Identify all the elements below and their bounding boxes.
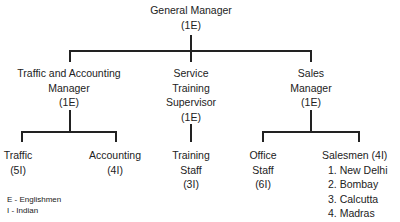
connector	[262, 131, 264, 142]
node-staff: (1E)	[140, 18, 242, 33]
node-title: Salesmen (4I)	[322, 148, 388, 163]
connector	[310, 110, 312, 132]
location-item: 1. New Delhi	[322, 163, 388, 178]
node-title: Manager	[270, 81, 352, 96]
connector	[69, 110, 71, 132]
node-staff: (1E)	[5, 95, 133, 110]
connector	[69, 50, 71, 62]
node-title: Supervisor	[150, 95, 232, 110]
connector	[190, 124, 192, 142]
connector	[21, 131, 23, 142]
connector	[358, 131, 360, 142]
node-title: Staff	[165, 163, 217, 178]
node-staff: (4I)	[82, 163, 148, 178]
node-title: General Manager	[140, 3, 242, 18]
node-title: Traffic and Accounting	[5, 66, 133, 81]
legend-indian: I - Indian	[7, 206, 61, 217]
legend-englishmen: E - Englishmen	[7, 195, 61, 206]
node-salesmen: Salesmen (4I) 1. New Delhi 2. Bombay 3. …	[322, 148, 388, 221]
node-general-manager: General Manager (1E)	[140, 3, 242, 32]
node-staff: (1E)	[150, 110, 232, 125]
node-staff: (6I)	[244, 177, 282, 192]
node-title: Training	[165, 148, 217, 163]
node-accounting: Accounting (4I)	[82, 148, 148, 177]
connector	[190, 50, 192, 62]
node-title: Accounting	[82, 148, 148, 163]
connector	[310, 50, 312, 62]
connector	[262, 131, 359, 133]
node-sales-manager: Sales Manager (1E)	[270, 66, 352, 110]
node-title: Sales	[270, 66, 352, 81]
node-service-training-supervisor: Service Training Supervisor (1E)	[150, 66, 232, 124]
node-title: Office	[244, 148, 282, 163]
node-staff: (5I)	[0, 163, 36, 178]
node-title: Manager	[5, 81, 133, 96]
node-office-staff: Office Staff (6I)	[244, 148, 282, 192]
node-title: Traffic	[0, 148, 36, 163]
connector	[21, 131, 116, 133]
node-staff: (3I)	[165, 177, 217, 192]
node-traffic: Traffic (5I)	[0, 148, 36, 177]
node-title: Staff	[244, 163, 282, 178]
node-title: Service	[150, 66, 232, 81]
location-item: 4. Madras	[322, 206, 388, 221]
legend: E - Englishmen I - Indian	[7, 195, 61, 216]
location-item: 3. Calcutta	[322, 192, 388, 207]
node-traffic-accounting-manager: Traffic and Accounting Manager (1E)	[5, 66, 133, 110]
connector	[115, 131, 117, 142]
connector	[190, 35, 192, 50]
node-title: Training	[150, 81, 232, 96]
node-training-staff: Training Staff (3I)	[165, 148, 217, 192]
location-item: 2. Bombay	[322, 177, 388, 192]
node-staff: (1E)	[270, 95, 352, 110]
